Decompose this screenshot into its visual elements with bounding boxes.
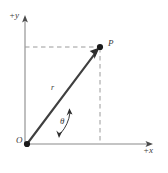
origin-point-dot (24, 141, 30, 147)
angle-label: θ (60, 117, 64, 126)
radius-vector-label: r (51, 84, 54, 92)
origin-label: O (16, 136, 23, 145)
point-p-dot (97, 44, 103, 50)
radius-vector-line (27, 53, 96, 144)
polar-coordinate-diagram: +y +x O P r θ (0, 0, 168, 173)
y-axis-label: +y (9, 11, 19, 20)
arc-arrow-down-icon (56, 130, 62, 138)
x-axis-label: +x (143, 146, 153, 155)
point-p-label: P (108, 39, 114, 48)
